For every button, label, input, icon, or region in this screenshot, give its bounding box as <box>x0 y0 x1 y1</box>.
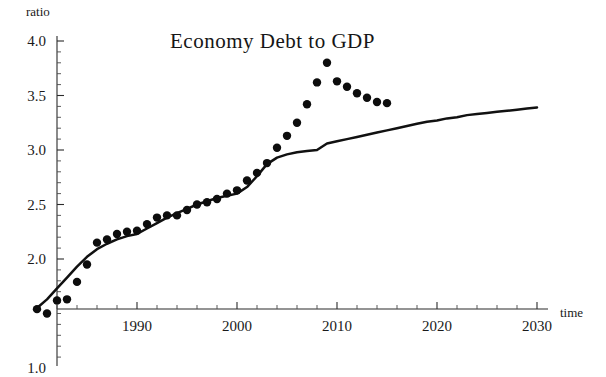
data-point <box>373 98 381 106</box>
x-axis-label: time <box>560 305 583 320</box>
y-tick-label: 1.0 <box>27 360 46 376</box>
data-point <box>113 230 121 238</box>
y-tick-label: 4.0 <box>27 33 46 49</box>
data-point <box>163 211 171 219</box>
data-point <box>53 296 61 304</box>
data-point <box>223 189 231 197</box>
data-point <box>63 295 71 303</box>
data-point <box>303 100 311 108</box>
data-point <box>243 176 251 184</box>
data-point <box>123 228 131 236</box>
data-point <box>73 278 81 286</box>
y-axis: 1.02.02.53.03.54.0 <box>27 33 64 376</box>
y-tick-label: 3.5 <box>27 88 46 104</box>
data-point <box>233 186 241 194</box>
data-point <box>293 119 301 127</box>
y-tick-label: 2.5 <box>27 197 46 213</box>
data-point <box>343 83 351 91</box>
y-axis-label: ratio <box>26 4 50 19</box>
data-point <box>43 309 51 317</box>
economy-debt-to-gdp-chart: 1.02.02.53.03.54.0 19902000201020202030 … <box>0 0 606 377</box>
x-tick-label: 2010 <box>322 318 352 334</box>
data-point <box>143 220 151 228</box>
chart-container: 1.02.02.53.03.54.0 19902000201020202030 … <box>0 0 606 377</box>
data-point <box>383 99 391 107</box>
chart-title: Economy Debt to GDP <box>170 29 375 53</box>
data-point <box>333 77 341 85</box>
x-tick-label: 2000 <box>222 318 252 334</box>
data-point <box>33 305 41 313</box>
data-point <box>313 78 321 86</box>
data-point <box>83 260 91 268</box>
data-point <box>93 238 101 246</box>
data-point <box>323 59 331 67</box>
y-tick-label: 2.0 <box>27 251 46 267</box>
data-point <box>253 169 261 177</box>
x-axis: 19902000201020202030 <box>57 302 552 334</box>
data-point <box>353 89 361 97</box>
data-point <box>263 159 271 167</box>
data-point <box>183 206 191 214</box>
data-point <box>273 144 281 152</box>
data-point <box>103 235 111 243</box>
x-tick-label: 2030 <box>522 318 552 334</box>
data-point <box>203 198 211 206</box>
data-point <box>283 132 291 140</box>
data-point <box>363 93 371 101</box>
x-tick-label: 1990 <box>122 318 152 334</box>
x-tick-label: 2020 <box>422 318 452 334</box>
data-point <box>153 213 161 221</box>
observed-debt-ratio-points <box>33 59 391 318</box>
data-point <box>213 195 221 203</box>
y-tick-label: 3.0 <box>27 142 46 158</box>
data-point <box>133 226 141 234</box>
data-point <box>193 200 201 208</box>
data-point <box>173 211 181 219</box>
